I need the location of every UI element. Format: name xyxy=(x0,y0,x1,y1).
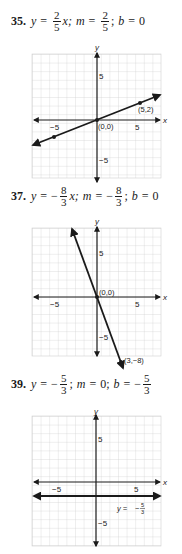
slope-sign: − xyxy=(106,189,113,204)
tick-label-neg-y: −5 xyxy=(98,519,108,528)
intercept-value: 0 xyxy=(139,14,145,29)
coef-fraction: 25 xyxy=(53,10,61,33)
line-label-sign: − xyxy=(135,504,140,513)
graph-37: x y −5 5 5 −5 (0,0) (3,−8) xyxy=(0,222,182,372)
intercept-label: b xyxy=(118,14,124,29)
denominator: 5 xyxy=(53,22,61,33)
line-label-num: 5 xyxy=(141,502,144,508)
denominator: 5 xyxy=(101,22,109,33)
slope-eq: = xyxy=(89,377,96,392)
eq-lhs: y xyxy=(31,14,36,29)
eq-lhs: y xyxy=(31,189,36,204)
intercept-eq: = xyxy=(142,189,149,204)
point-3-neg8 xyxy=(119,360,123,364)
eq-sign: = xyxy=(40,189,47,204)
tick-label-pos-y: 5 xyxy=(99,249,104,258)
x-axis-label: x xyxy=(162,478,168,487)
denominator: 3 xyxy=(60,197,68,208)
intercept-label: b xyxy=(132,189,138,204)
denominator: 3 xyxy=(60,385,68,396)
tick-label-pos-x: 5 xyxy=(135,123,140,132)
point-label-3-neg8: (3,−8) xyxy=(124,356,144,365)
intercept-fraction: 53 xyxy=(143,373,151,396)
eq-var: x; xyxy=(63,14,72,29)
slope-eq: = xyxy=(95,189,102,204)
slope-fraction: 83 xyxy=(115,185,123,208)
equation-line: 35. y = 25 x; m = 25 ; b = 0 xyxy=(11,10,145,33)
point-label-origin: (0,0) xyxy=(99,288,115,297)
problem-number: 39. xyxy=(11,377,26,392)
tick-label-neg-y: −5 xyxy=(99,333,109,342)
equation-line: 39. y = − 53 ; m = 0; b = − 53 xyxy=(11,373,153,396)
y-axis-label: y xyxy=(94,43,100,52)
y-axis-label: y xyxy=(93,407,99,416)
intercept-sign: − xyxy=(134,377,141,392)
eq-sign: = xyxy=(40,377,47,392)
denominator: 3 xyxy=(115,197,123,208)
point-neg5-neg2 xyxy=(52,135,56,139)
line-label-den: 3 xyxy=(141,509,144,515)
tick-label-neg-x: −5 xyxy=(50,123,60,132)
equation-line: 37. y = − 83 x; m = − 83 ; b = 0 xyxy=(11,185,159,208)
point-label-5-2: (5,2) xyxy=(138,105,154,114)
separator: ; xyxy=(69,377,72,392)
tick-label-pos-y: 5 xyxy=(98,435,103,444)
coef-sign: − xyxy=(51,377,58,392)
graph-39: x y −5 5 5 −5 y = − 5 3 xyxy=(0,410,182,554)
intercept-eq: = xyxy=(124,377,131,392)
slope-value: 0; xyxy=(100,377,109,392)
intercept-label: b xyxy=(114,377,120,392)
intercept-value: 0 xyxy=(153,189,159,204)
separator: ; xyxy=(124,189,127,204)
tick-label-pos-x: 5 xyxy=(134,485,139,494)
separator: ; xyxy=(111,14,114,29)
graph-35: x y −5 5 5 −5 (0,0) (5,2) xyxy=(0,46,182,186)
coef-sign: − xyxy=(51,189,58,204)
slope-eq: = xyxy=(89,14,96,29)
point-label-origin: (0,0) xyxy=(98,122,114,131)
slope-label: m xyxy=(77,377,86,392)
slope-fraction: 25 xyxy=(101,10,109,33)
tick-label-neg-y: −5 xyxy=(99,156,109,165)
x-axis-label: x xyxy=(162,116,168,125)
tick-label-neg-x: −5 xyxy=(50,300,60,309)
slope-label: m xyxy=(83,189,92,204)
intercept-eq: = xyxy=(128,14,135,29)
tick-label-pos-x: 5 xyxy=(135,300,140,309)
line-label-lhs: y = xyxy=(116,504,128,513)
coef-fraction: 83 xyxy=(60,185,68,208)
x-axis-label: x xyxy=(162,293,168,302)
problem-number: 37. xyxy=(11,189,26,204)
denominator: 3 xyxy=(143,385,151,396)
coef-fraction: 53 xyxy=(60,373,68,396)
eq-sign: = xyxy=(40,14,47,29)
tick-label-pos-y: 5 xyxy=(99,72,104,81)
tick-label-neg-x: −5 xyxy=(52,485,62,494)
problem-number: 35. xyxy=(11,14,26,29)
y-axis-label: y xyxy=(94,217,100,226)
slope-label: m xyxy=(76,14,85,29)
eq-lhs: y xyxy=(31,377,36,392)
eq-var: x; xyxy=(69,189,78,204)
